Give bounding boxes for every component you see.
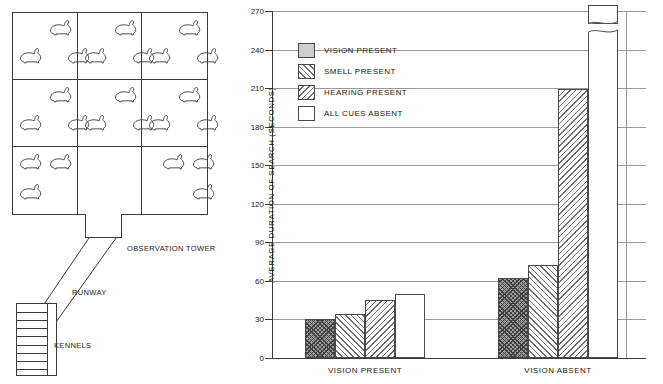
legend-label: SMELL PRESENT <box>324 67 396 76</box>
bar-vision-present-smell-present <box>335 314 365 358</box>
kennel-corridor <box>48 303 57 376</box>
rabbit-icon <box>114 19 138 36</box>
y-tick-label: 60 <box>255 276 264 285</box>
y-axis-tick <box>265 127 273 128</box>
y-tick-label: 30 <box>255 315 264 324</box>
kennels-label: KENNELS <box>54 341 91 350</box>
pen-5 <box>78 80 143 147</box>
rabbit-icon <box>114 86 138 103</box>
observation-tower <box>85 214 122 238</box>
pen-4 <box>13 80 78 147</box>
rabbit-icon <box>162 153 186 170</box>
rabbit-icon <box>196 47 220 64</box>
legend-label: HEARING PRESENT <box>324 88 407 97</box>
bar-chart: AVERAGE DURATION OF SEARCH (SECONDS) 030… <box>228 0 663 384</box>
y-tick-label: 150 <box>251 161 264 170</box>
rabbit-icon <box>49 153 73 170</box>
rabbit-icon <box>84 47 108 64</box>
rabbit-icon <box>49 86 73 103</box>
y-tick-label: 240 <box>251 45 264 54</box>
y-axis-title: AVERAGE DURATION OF SEARCH (SECONDS) <box>267 87 276 283</box>
rabbit-icon <box>178 19 202 36</box>
observation-tower-label: OBSERVATION TOWER <box>127 244 216 253</box>
rabbit-icon <box>178 86 202 103</box>
kennel-divider <box>17 320 47 321</box>
y-axis-tick <box>265 204 273 205</box>
rabbit-icon <box>49 19 73 36</box>
rabbit-icon <box>49 153 73 170</box>
rabbit-icon <box>192 183 216 200</box>
y-axis-tick <box>265 50 273 51</box>
bar-vision-present-vision-present <box>305 319 335 358</box>
kennel-divider <box>17 345 47 346</box>
rabbit-icon <box>114 86 138 103</box>
rabbit-icon <box>196 47 220 64</box>
rabbit-icon <box>19 183 43 200</box>
figure-root: OBSERVATION TOWER RUNWAY KENNELS AVERAGE… <box>0 0 663 384</box>
y-tick-label: 270 <box>251 7 264 16</box>
rabbit-icon <box>19 47 43 64</box>
y-tick-label: 120 <box>251 199 264 208</box>
y-axis-tick <box>265 165 273 166</box>
rabbit-icon <box>148 47 172 64</box>
rabbit-icon <box>162 153 186 170</box>
legend-item-hearing-present: HEARING PRESENT <box>298 82 407 103</box>
rabbit-icon <box>19 114 43 131</box>
rabbit-icon <box>148 114 172 131</box>
rabbit-icon <box>19 153 43 170</box>
pen-1 <box>13 13 78 80</box>
legend-label: ALL CUES ABSENT <box>324 109 403 118</box>
facility-map: OBSERVATION TOWER RUNWAY KENNELS <box>0 0 228 384</box>
rabbit-icon <box>84 47 108 64</box>
rabbit-icon <box>19 114 43 131</box>
bar-vision-absent-all-cues-absent <box>588 39 618 358</box>
pen-2 <box>78 13 143 80</box>
x-group-label: VISION PRESENT <box>328 366 402 375</box>
pen-8 <box>78 147 143 214</box>
y-tick-label: 0 <box>260 354 264 363</box>
bar-vision-absent-hearing-present <box>558 89 588 358</box>
legend-swatch <box>298 106 315 121</box>
legend-item-all-cues-absent: ALL CUES ABSENT <box>298 103 407 124</box>
pen-7 <box>13 147 78 214</box>
legend-swatch <box>298 85 315 100</box>
y-tick-label: 90 <box>255 238 264 247</box>
pen-3 <box>142 13 207 80</box>
legend-item-smell-present: SMELL PRESENT <box>298 61 407 82</box>
legend-item-vision-present: VISION PRESENT <box>298 40 407 61</box>
legend-label: VISION PRESENT <box>324 46 397 55</box>
kennel-divider <box>17 369 47 370</box>
kennel-divider <box>17 336 47 337</box>
rabbit-icon <box>148 114 172 131</box>
pen-grid <box>12 12 208 215</box>
rabbit-icon <box>148 47 172 64</box>
kennel-divider <box>17 361 47 362</box>
bar-vision-absent-vision-present <box>498 278 528 358</box>
gridline <box>273 11 646 12</box>
y-tick-label: 180 <box>251 122 264 131</box>
rabbit-icon <box>192 183 216 200</box>
rabbit-icon <box>49 86 73 103</box>
pen-6 <box>142 80 207 147</box>
rabbit-icon <box>19 47 43 64</box>
y-tick-label: 210 <box>251 84 264 93</box>
y-axis-tick <box>265 319 273 320</box>
y-axis-tick <box>265 88 273 89</box>
x-group-label: VISION ABSENT <box>524 366 591 375</box>
y-axis-tick <box>265 281 273 282</box>
pen-9 <box>142 147 207 214</box>
rabbit-icon <box>19 153 43 170</box>
y-axis-tick <box>265 358 273 359</box>
rabbit-icon <box>196 114 220 131</box>
chart-legend: VISION PRESENTSMELL PRESENTHEARING PRESE… <box>298 40 407 124</box>
bar-vision-present-hearing-present <box>365 300 395 358</box>
rabbit-icon <box>192 153 216 170</box>
kennel-divider <box>17 328 47 329</box>
kennel-divider <box>17 353 47 354</box>
rabbit-icon <box>19 183 43 200</box>
rabbit-icon <box>84 114 108 131</box>
kennel-block <box>16 303 48 376</box>
kennel-divider <box>17 312 47 313</box>
legend-swatch <box>298 43 315 58</box>
y-axis-tick <box>265 11 273 12</box>
